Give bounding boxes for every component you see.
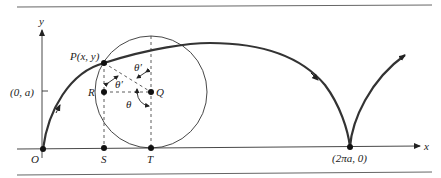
label-Q: Q — [156, 86, 164, 98]
point-T — [148, 145, 154, 151]
top-rule — [17, 5, 432, 7]
label-y-tick: (0, a) — [10, 86, 34, 99]
point-S — [101, 145, 107, 151]
point-cusp — [347, 144, 353, 150]
y-axis-label: y — [38, 15, 44, 27]
label-cusp: (2πa, 0) — [332, 152, 367, 165]
point-Q — [148, 89, 154, 95]
point-P — [101, 60, 107, 66]
bottom-rule — [17, 172, 432, 175]
cycloid-diagram: y x O P(x, y) R Q S T (0, a) (2πa, 0) θ … — [0, 0, 441, 178]
x-axis-label: x — [423, 140, 429, 152]
label-R: R — [87, 86, 95, 98]
point-R — [101, 89, 107, 95]
dashed-PQ — [104, 63, 151, 92]
label-theta-prime-upper: θ′ — [134, 61, 142, 73]
label-theta-prime-lower: θ′ — [115, 78, 123, 90]
theta-arc — [137, 92, 149, 106]
label-T: T — [147, 153, 154, 165]
label-S: S — [101, 153, 107, 165]
x-axis — [17, 146, 420, 149]
label-P: P(x, y) — [69, 50, 100, 63]
label-O: O — [31, 153, 39, 165]
point-O — [40, 146, 46, 152]
cycloid-curve-next — [350, 55, 405, 147]
label-theta: θ — [126, 98, 132, 110]
